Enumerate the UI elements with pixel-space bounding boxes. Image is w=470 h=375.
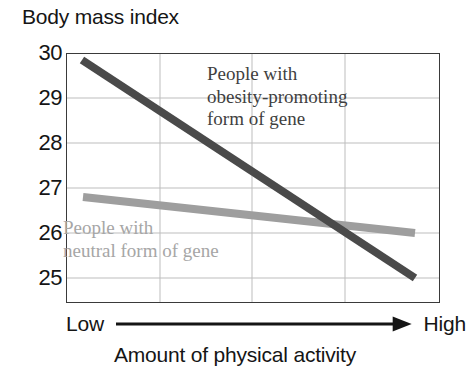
- x-axis-high-label: High: [424, 312, 466, 336]
- annotation-neutral-gene: People with neutral form of gene: [63, 217, 219, 262]
- y-tick-25: 25: [18, 267, 62, 289]
- y-tick-30: 30: [18, 42, 62, 64]
- arrow-right-icon: [116, 312, 412, 336]
- x-axis-low-label: Low: [66, 312, 104, 336]
- x-axis-caption: Amount of physical activity: [0, 342, 470, 368]
- y-tick-26: 26: [18, 222, 62, 244]
- y-tick-28: 28: [18, 132, 62, 154]
- bmi-physical-activity-chart: Body mass index 30 29 28 27 26 25: [0, 0, 470, 375]
- y-tick-29: 29: [18, 87, 62, 109]
- x-axis-direction-row: Low High: [66, 309, 466, 339]
- annotation-obesity-gene: People with obesity-promoting form of ge…: [207, 63, 347, 131]
- y-tick-27: 27: [18, 177, 62, 199]
- y-axis-tick-labels: 30 29 28 27 26 25: [14, 0, 62, 375]
- x-axis-arrow-container: [116, 312, 412, 336]
- plot-area: People with obesity-promoting form of ge…: [66, 53, 440, 303]
